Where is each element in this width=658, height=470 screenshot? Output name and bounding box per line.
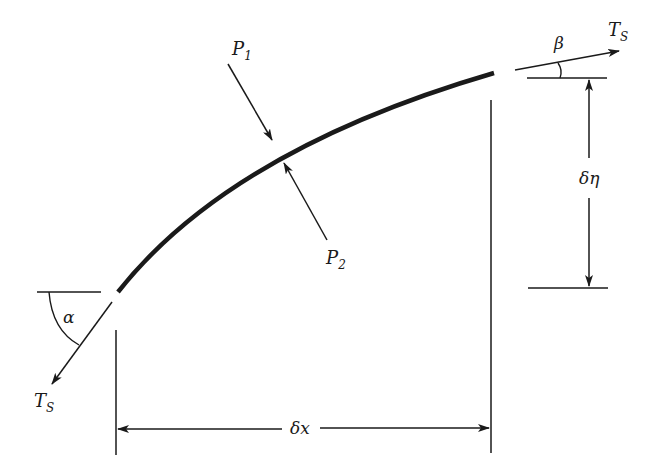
curved-element: [118, 73, 494, 292]
load-p2-arrow: [284, 163, 327, 240]
curved-element-diagram: α TS β TS P1 P2 δη δx: [0, 0, 658, 470]
right-tension-arrow: [515, 51, 619, 70]
dim-x-label: δx: [290, 418, 310, 438]
load-p1-arrow: [228, 64, 272, 140]
right-tension-label: TS: [608, 19, 628, 44]
left-tension-arrow: [52, 302, 112, 384]
angle-beta-label: β: [553, 33, 564, 53]
dim-eta-label: δη: [579, 168, 600, 188]
left-tension-label: TS: [34, 390, 54, 415]
angle-beta-arc: [558, 63, 561, 78]
load-p2-label: P2: [325, 247, 346, 272]
angle-alpha-label: α: [63, 307, 75, 327]
load-p1-label: P1: [231, 38, 252, 63]
